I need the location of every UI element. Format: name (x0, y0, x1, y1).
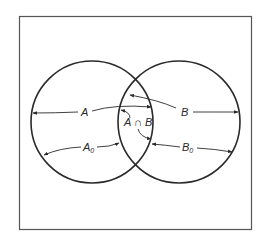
arrow-a (33, 106, 151, 113)
label-a0: A0 (82, 141, 94, 154)
arrow-a0 (44, 143, 119, 155)
venn-diagram: A B A0 B0 A ∩ B (0, 0, 263, 241)
label-b: B (181, 106, 188, 118)
label-intersection: A ∩ B (123, 116, 152, 128)
label-a: A (80, 106, 88, 118)
label-b0: B0 (182, 141, 193, 154)
